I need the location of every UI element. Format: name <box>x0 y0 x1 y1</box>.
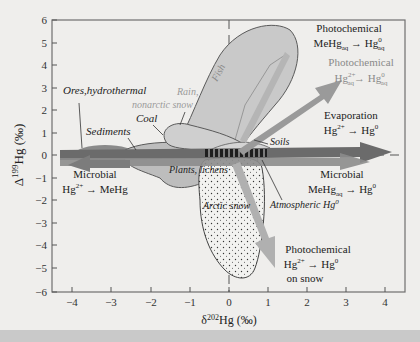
y-tick-neg1: −1 <box>35 172 47 184</box>
microbial-mehg-title: Microbial <box>320 168 363 180</box>
evaporation-equation: Hg2+ → Hg0 <box>324 123 379 136</box>
isotope-diagram: 6 5 4 3 2 1 0 −1 −2 −3 −4 −5 −6 Δ199Hg (… <box>0 0 420 342</box>
photochemical-hg-title: Photochemical <box>328 56 393 68</box>
microbial-hg-equation: Hg2+ → MeHg <box>62 182 128 195</box>
rain-label: Rain, <box>176 86 198 97</box>
arctic-snow-label: Arctic snow <box>202 200 250 211</box>
evaporation-title: Evaporation <box>324 109 378 121</box>
photochemical-mehg-equation: MeHgaq → Hg0aq <box>314 36 385 52</box>
diagram-canvas: 6 5 4 3 2 1 0 −1 −2 −3 −4 −5 −6 Δ199Hg (… <box>0 0 420 342</box>
atmospheric-hg-label: Atmospheric Hg0 <box>269 198 339 210</box>
x-axis: −4 −3 −2 −1 0 1 2 3 4 <box>66 287 388 308</box>
photochemical-snow-equation: Hg2+ → Hg0 <box>284 257 339 270</box>
plants-lichens-label: Plants, lichens <box>168 164 228 175</box>
microbial-mehg-equation: MeHgaq → Hg0 <box>308 182 377 198</box>
x-tick-3: 3 <box>343 296 349 308</box>
sediments-label: Sediments <box>86 125 131 137</box>
y-tick-neg3: −3 <box>35 217 47 229</box>
photochemical-mehg-title: Photochemical <box>316 22 381 34</box>
x-tick-2: 2 <box>304 296 310 308</box>
y-tick-2: 2 <box>42 104 48 116</box>
y-tick-neg6: −6 <box>35 286 47 298</box>
nonarctic-snow-label: nonarctic snow <box>132 99 193 110</box>
y-tick-5: 5 <box>42 37 48 49</box>
x-tick-neg1: −1 <box>184 296 196 308</box>
y-tick-4: 4 <box>42 59 48 71</box>
bottom-edge <box>0 330 420 342</box>
microbial-hg-title: Microbial <box>73 168 116 180</box>
y-tick-neg5: −5 <box>35 262 47 274</box>
ores-label: Ores,hydrothermal <box>63 84 146 96</box>
x-tick-neg2: −2 <box>145 296 157 308</box>
y-axis: 6 5 4 3 2 1 0 −1 −2 −3 −4 −5 −6 <box>35 14 57 298</box>
y-tick-neg4: −4 <box>35 239 47 251</box>
x-tick-neg4: −4 <box>66 296 78 308</box>
y-tick-3: 3 <box>42 82 48 94</box>
coal-label: Coal <box>136 112 157 124</box>
y-axis-title: Δ199Hg (‰) <box>10 124 26 187</box>
photochemical-snow-line3: on snow <box>287 272 324 284</box>
x-axis-title: δ202Hg (‰) <box>201 313 256 327</box>
y-tick-1: 1 <box>42 127 48 139</box>
x-tick-4: 4 <box>382 296 388 308</box>
x-tick-0: 0 <box>226 296 232 308</box>
y-tick-6: 6 <box>42 14 48 26</box>
atmospheric-hg-band <box>205 149 267 157</box>
y-tick-neg2: −2 <box>35 194 47 206</box>
x-tick-neg3: −3 <box>105 296 117 308</box>
x-tick-1: 1 <box>265 296 271 308</box>
y-tick-0: 0 <box>42 149 48 161</box>
soils-label: Soils <box>270 136 290 147</box>
photochemical-hg-equation: Hg2+aq→ Hg0aq <box>335 71 388 87</box>
photochemical-snow-title: Photochemical <box>285 243 350 255</box>
